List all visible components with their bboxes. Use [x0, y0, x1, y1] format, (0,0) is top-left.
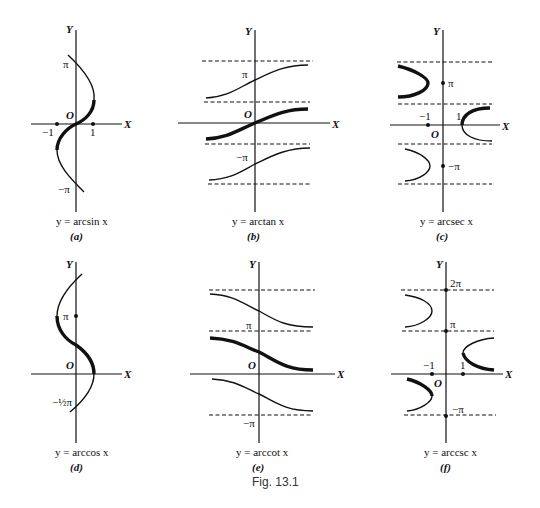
point-neg-pi [444, 414, 448, 418]
tick-pi: π [246, 319, 252, 331]
panel-letter: (b) [247, 230, 260, 243]
curve-arcsec-upper-left [398, 66, 428, 97]
tick-pi: π [63, 310, 69, 322]
point-two-pi [444, 288, 448, 292]
origin-label: O [434, 377, 442, 389]
tick-neg-pi: −π [243, 417, 255, 429]
origin-label: O [244, 108, 252, 120]
panel-a-arcsin: Y X O π −π −1 1 y = arcsin x (a) [31, 23, 132, 243]
curve-arccsc-upper-left [405, 295, 432, 327]
panel-letter: (e) [252, 461, 264, 474]
tick-neg-one: −1 [419, 110, 431, 122]
tick-pi: π [63, 58, 69, 70]
tick-neg-pi: −π [58, 183, 70, 195]
panel-d-arccos: Y X O π −½π y = arccos x (d) [31, 258, 132, 474]
tick-neg-one: −1 [423, 359, 435, 371]
panel-letter: (a) [70, 230, 83, 243]
tick-neg-pi: −π [452, 403, 464, 415]
point-pi [74, 314, 78, 318]
figure-caption: Fig. 13.1 [252, 475, 299, 489]
origin-label: O [66, 359, 74, 371]
x-axis-label: X [336, 368, 345, 380]
x-axis-label: X [123, 368, 132, 380]
curve-arcsec-right-lower [462, 125, 492, 141]
tick-one: 1 [460, 359, 466, 371]
x-axis-label: X [504, 368, 513, 380]
curve-arctan-upper [206, 65, 308, 98]
point-pi [444, 329, 448, 333]
tick-one: 1 [90, 126, 96, 138]
curve-arccsc-right-upper [463, 338, 494, 353]
curve-arctan-lower [209, 148, 310, 180]
point-neg-one [55, 122, 59, 126]
tick-neg-pi: −π [448, 160, 460, 172]
point-one [91, 122, 95, 126]
tick-pi: π [450, 318, 456, 330]
point-neg-pi [441, 164, 445, 168]
x-axis-label: X [331, 118, 340, 130]
tick-neg-pi: −π [236, 151, 248, 163]
point-neg-one [426, 123, 430, 127]
panel-title: y = arccsc x [424, 446, 477, 458]
curve-arccos-upper [57, 274, 82, 316]
panel-title: y = arctan x [232, 215, 285, 227]
panel-f-arccsc: Y X O 2π π −π −1 1 y = arccsc x (f) [391, 258, 513, 474]
curve-arcsec-lower-left [405, 149, 430, 181]
y-axis-label: Y [245, 25, 253, 37]
curve-arccsc-lower-left [407, 396, 432, 411]
y-axis-label: Y [436, 258, 444, 270]
panel-title: y = arccos x [55, 446, 109, 458]
tick-pi: π [242, 68, 248, 80]
panel-c-arcsec: Y X O π −π −1 1 y = arcsec x (c) [390, 25, 510, 243]
point-one [461, 372, 465, 376]
curve-arccsc-principal-left [407, 379, 432, 396]
panel-title: y = arcsin x [56, 215, 108, 227]
panel-title: y = arcsec x [420, 215, 473, 227]
panel-letter: (f) [440, 461, 451, 474]
panel-e-arccot: Y X O π −π y = arccot x (e) [190, 258, 345, 474]
point-pi [441, 81, 445, 85]
curve-arctan-principal [206, 109, 308, 139]
y-axis-label: Y [66, 258, 74, 270]
origin-label: O [431, 128, 439, 140]
curve-arccot-principal [210, 338, 313, 370]
tick-pi: π [448, 77, 454, 89]
tick-neg-one: −1 [42, 126, 54, 138]
y-axis-label: Y [433, 25, 441, 37]
tick-two-pi: 2π [450, 277, 462, 289]
panel-b-arctan: Y X O π −π y = arctan x (b) [178, 25, 340, 243]
point-neg-one [430, 372, 434, 376]
curve-arccot-upper [210, 294, 313, 327]
curve-arcsec-principal-upper [462, 108, 490, 125]
tick-one: 1 [456, 110, 462, 122]
x-axis-label: X [501, 120, 510, 132]
panel-letter: (d) [70, 461, 83, 474]
origin-label: O [248, 359, 256, 371]
y-axis-label: Y [66, 23, 74, 35]
panel-title: y = arccot x [236, 446, 289, 458]
curve-arccot-lower [212, 379, 313, 411]
curve-arccsc-principal-right [463, 353, 494, 370]
y-axis-label: Y [249, 258, 257, 270]
tick-neg-half-pi: −½π [52, 396, 72, 408]
curve-arccos-lower [70, 374, 94, 412]
x-axis-label: X [123, 118, 132, 130]
figure-canvas: Y X O π −π −1 1 y = arcsin x (a) Y X O π… [0, 0, 540, 508]
panel-letter: (c) [436, 230, 448, 243]
origin-label: O [66, 109, 74, 121]
